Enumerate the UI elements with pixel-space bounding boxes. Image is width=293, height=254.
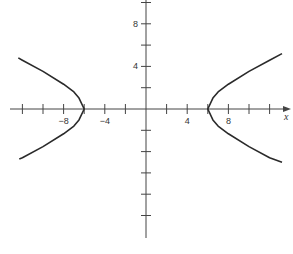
x-tick-label: −8 (58, 116, 68, 126)
x-axis-label: x (283, 111, 289, 122)
hyperbola-chart: x −8−44884 (0, 0, 293, 254)
axes: x (10, 0, 291, 238)
curves (18, 54, 282, 163)
x-tick-label: 4 (185, 116, 190, 126)
right-branch-curve (208, 54, 282, 163)
y-tick-label: 4 (133, 61, 138, 71)
x-tick-label: 8 (226, 116, 231, 126)
x-tick-label: −4 (100, 116, 110, 126)
y-tick-label: 8 (133, 19, 138, 29)
